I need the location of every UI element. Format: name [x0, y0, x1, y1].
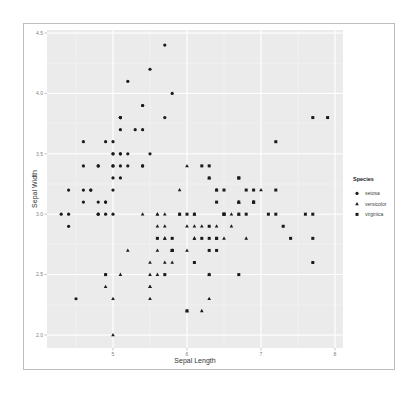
data-point-versicolor: [156, 224, 160, 227]
data-point-setosa: [111, 164, 114, 167]
data-point-setosa: [82, 164, 85, 167]
y-tick-label: 4.5: [36, 30, 43, 36]
data-point-versicolor: [163, 224, 167, 227]
data-point-virginica: [237, 176, 240, 179]
data-point-setosa: [89, 188, 92, 191]
y-tick-label: 2.0: [36, 332, 43, 338]
data-point-versicolor: [148, 261, 152, 264]
data-point-versicolor: [222, 236, 226, 239]
data-point-versicolor: [104, 285, 108, 288]
legend-label-virginica: virginica: [365, 211, 384, 217]
data-point-setosa: [74, 297, 77, 300]
legend-label-versicolor: versicolor: [365, 201, 387, 207]
data-point-setosa: [126, 80, 129, 83]
data-point-versicolor: [200, 309, 204, 312]
data-point-virginica: [223, 213, 226, 216]
data-point-virginica: [311, 237, 314, 240]
data-point-setosa: [119, 116, 122, 119]
data-point-virginica: [208, 225, 211, 228]
data-point-virginica: [215, 237, 218, 240]
data-point-setosa: [104, 213, 107, 216]
legend-key-setosa-icon: [355, 192, 358, 195]
data-point-versicolor: [185, 248, 189, 251]
data-point-setosa: [163, 43, 166, 46]
data-point-virginica: [274, 213, 277, 216]
legend-key-versicolor-icon: [355, 202, 359, 205]
data-point-setosa: [67, 188, 70, 191]
data-point-virginica: [178, 213, 181, 216]
data-point-virginica: [282, 225, 285, 228]
data-point-setosa: [111, 152, 114, 155]
data-point-versicolor: [200, 224, 204, 227]
data-point-virginica: [171, 237, 174, 240]
data-point-setosa: [82, 140, 85, 143]
data-point-setosa: [119, 128, 122, 131]
y-axis-title: Sepal Width: [31, 170, 39, 208]
data-point-setosa: [119, 152, 122, 155]
data-point-setosa: [141, 128, 144, 131]
data-point-virginica: [252, 201, 255, 204]
x-tick-label: 7: [260, 351, 263, 357]
data-point-virginica: [311, 116, 314, 119]
data-point-versicolor: [230, 224, 234, 227]
data-point-versicolor: [148, 285, 152, 288]
data-point-setosa: [111, 140, 114, 143]
data-point-versicolor: [207, 297, 211, 300]
legend-title: Species: [353, 176, 374, 182]
data-point-virginica: [208, 237, 211, 240]
data-point-virginica: [208, 176, 211, 179]
data-point-virginica: [311, 213, 314, 216]
data-point-virginica: [186, 213, 189, 216]
data-point-virginica: [215, 249, 218, 252]
data-point-virginica: [237, 201, 240, 204]
legend-key-virginica-icon: [356, 213, 359, 216]
data-point-virginica: [267, 213, 270, 216]
data-point-setosa: [141, 104, 144, 107]
data-point-versicolor: [259, 188, 263, 191]
data-point-setosa: [82, 201, 85, 204]
data-point-setosa: [148, 68, 151, 71]
data-points: [60, 43, 330, 336]
data-point-virginica: [223, 189, 226, 192]
data-point-virginica: [156, 237, 159, 240]
data-point-setosa: [104, 140, 107, 143]
y-tick-label: 3.5: [36, 151, 43, 157]
data-point-virginica: [193, 213, 196, 216]
data-point-setosa: [126, 152, 129, 155]
data-point-virginica: [311, 261, 314, 264]
x-tick-label: 8: [334, 351, 337, 357]
data-point-virginica: [215, 189, 218, 192]
data-point-virginica: [245, 213, 248, 216]
data-point-setosa: [111, 188, 114, 191]
data-point-virginica: [304, 213, 307, 216]
data-point-setosa: [97, 164, 100, 167]
data-point-virginica: [193, 261, 196, 264]
data-point-virginica: [274, 140, 277, 143]
data-point-virginica: [186, 309, 189, 312]
legend: Species setosaversicolorvirginica: [353, 176, 387, 217]
data-point-setosa: [141, 164, 144, 167]
legend-label-setosa: setosa: [365, 190, 380, 196]
data-point-setosa: [119, 164, 122, 167]
data-point-setosa: [111, 213, 114, 216]
data-point-versicolor: [193, 224, 197, 227]
data-point-versicolor: [244, 236, 248, 239]
data-point-versicolor: [163, 236, 167, 239]
data-point-virginica: [200, 237, 203, 240]
data-point-virginica: [252, 189, 255, 192]
data-point-virginica: [104, 273, 107, 276]
data-point-setosa: [111, 176, 114, 179]
data-point-versicolor: [215, 224, 219, 227]
data-point-virginica: [208, 249, 211, 252]
x-tick-label: 5: [112, 351, 115, 357]
data-point-versicolor: [185, 164, 189, 167]
data-point-versicolor: [178, 188, 182, 191]
data-point-versicolor: [111, 297, 115, 300]
scatter-chart: 2.02.53.03.54.04.5 5678 Sepal Length Sep…: [0, 0, 418, 398]
data-point-versicolor: [185, 224, 189, 227]
data-point-setosa: [163, 116, 166, 119]
data-point-setosa: [60, 213, 63, 216]
data-point-setosa: [67, 225, 70, 228]
data-point-virginica: [289, 237, 292, 240]
data-point-setosa: [67, 213, 70, 216]
